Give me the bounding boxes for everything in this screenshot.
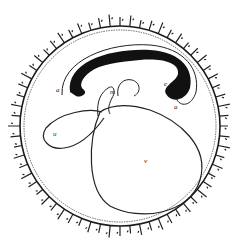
label-e: e — [164, 80, 167, 88]
stalk-i — [118, 80, 139, 96]
label-i: i — [122, 56, 124, 64]
embryo-illustration: a a i e m u v — [0, 0, 240, 249]
diagram: a a i e m u v — [0, 0, 240, 249]
label-v: v — [144, 157, 148, 165]
label-u: u — [53, 130, 57, 138]
label-m: m — [110, 88, 115, 96]
label-a-right: a — [174, 103, 178, 111]
chorionic-villi — [8, 15, 230, 238]
label-a-left: a — [56, 86, 60, 94]
